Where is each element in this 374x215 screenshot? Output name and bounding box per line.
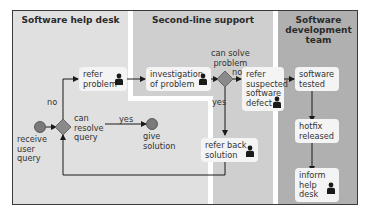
person-icon: [245, 145, 255, 157]
task-investigation-of-problem: investigation of problem: [146, 67, 211, 91]
person-icon: [114, 73, 124, 85]
edge-label-no: no: [47, 98, 57, 108]
swimlane-diagram: Software help desk Second-line support S…: [12, 10, 358, 205]
gateway-can-solve-problem: [217, 71, 233, 87]
edge-label-yes: yes: [212, 98, 226, 108]
person-icon: [272, 96, 282, 108]
label-can-solve-problem: can solve problem: [211, 49, 250, 68]
task-hotfix-released: hotfix released: [295, 119, 339, 143]
task-software-tested: software tested: [295, 67, 339, 91]
person-icon: [198, 73, 208, 85]
start-event-receive-user-query: [35, 122, 46, 133]
task-refer-problem: refer problem: [79, 67, 127, 91]
label-give-solution: give solution: [143, 132, 175, 151]
person-icon: [326, 182, 336, 194]
task-refer-back-solution: refer back solution: [201, 138, 258, 162]
label-receive-user-query: receive user query: [17, 135, 47, 164]
end-event-give-solution: [147, 119, 158, 130]
task-refer-suspected-software-defect: refer suspected software defect: [242, 67, 284, 111]
task-inform-help-desk: inform help desk: [295, 168, 339, 202]
gateway-can-resolve-query: [55, 119, 71, 135]
edge-label-no: no: [232, 68, 242, 78]
label-can-resolve-query: can resolve query: [74, 114, 104, 143]
edge-label-yes: yes: [119, 115, 133, 125]
